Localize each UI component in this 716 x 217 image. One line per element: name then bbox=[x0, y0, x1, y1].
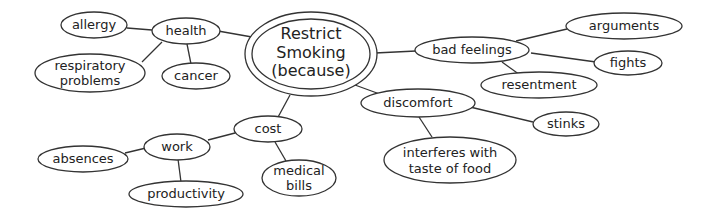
label-stinks: stinks bbox=[547, 116, 585, 131]
edge-center-health bbox=[218, 31, 252, 37]
edge-health-respiratory bbox=[142, 42, 162, 62]
node-productivity: productivity bbox=[129, 181, 243, 207]
edge-cost-medical bbox=[275, 142, 286, 161]
node-stinks: stinks bbox=[533, 112, 599, 136]
label-absences: absences bbox=[52, 151, 113, 166]
center-line-2: Smoking bbox=[276, 43, 346, 62]
label-respiratory-1: respiratory bbox=[54, 58, 125, 73]
edge-center-badfeelings bbox=[375, 51, 416, 53]
node-resentment: resentment bbox=[481, 72, 597, 98]
label-cancer: cancer bbox=[174, 68, 218, 83]
label-respiratory-2: problems bbox=[60, 73, 121, 88]
label-resentment: resentment bbox=[501, 77, 576, 92]
node-medical-bills: medical bills bbox=[262, 160, 336, 196]
node-respiratory-problems: respiratory problems bbox=[35, 54, 145, 92]
label-medical-1: medical bbox=[273, 163, 324, 178]
edge-work-absences bbox=[125, 148, 146, 153]
edge-badfeelings-fights bbox=[531, 53, 596, 62]
node-fights: fights bbox=[594, 51, 662, 75]
edge-health-cancer bbox=[187, 44, 191, 64]
label-bad-feelings: bad feelings bbox=[432, 42, 512, 57]
label-allergy: allergy bbox=[72, 17, 117, 32]
label-discomfort: discomfort bbox=[383, 95, 452, 110]
edge-discomfort-stinks bbox=[470, 107, 533, 122]
edge-center-cost bbox=[277, 95, 290, 119]
edge-work-productivity bbox=[178, 159, 181, 182]
center-node: Restrict Smoking (because) bbox=[245, 12, 377, 96]
label-taste-1: interferes with bbox=[403, 145, 497, 160]
label-productivity: productivity bbox=[147, 186, 225, 201]
node-discomfort: discomfort bbox=[361, 89, 475, 117]
label-health: health bbox=[165, 23, 206, 38]
diagram-canvas: Restrict Smoking (because) health allerg… bbox=[0, 0, 716, 217]
label-medical-2: bills bbox=[286, 178, 312, 193]
edge-health-allergy bbox=[127, 28, 152, 30]
node-allergy: allergy bbox=[61, 12, 127, 38]
concept-web-diagram: Restrict Smoking (because) health allerg… bbox=[0, 0, 716, 217]
node-arguments: arguments bbox=[566, 13, 682, 39]
label-arguments: arguments bbox=[589, 18, 660, 33]
label-cost: cost bbox=[255, 121, 282, 136]
label-work: work bbox=[161, 139, 193, 154]
label-taste-2: taste of food bbox=[409, 161, 491, 176]
node-cancer: cancer bbox=[162, 63, 230, 89]
node-absences: absences bbox=[38, 146, 128, 172]
edge-badfeelings-arguments bbox=[516, 29, 567, 41]
center-line-1: Restrict bbox=[281, 24, 342, 43]
node-work: work bbox=[144, 134, 210, 160]
node-health: health bbox=[152, 18, 220, 44]
edge-cost-work bbox=[208, 133, 235, 140]
node-cost: cost bbox=[234, 116, 302, 142]
node-bad-feelings: bad feelings bbox=[415, 37, 529, 63]
edge-discomfort-taste bbox=[419, 117, 432, 137]
node-interferes-with-taste: interferes with taste of food bbox=[384, 137, 516, 183]
center-line-3: (because) bbox=[271, 61, 350, 80]
label-fights: fights bbox=[610, 55, 647, 70]
